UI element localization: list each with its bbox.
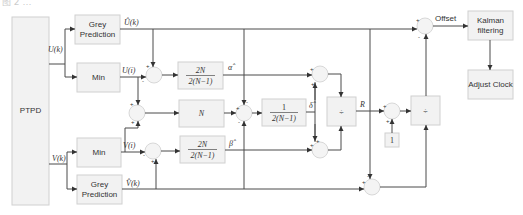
signal-r: R: [359, 100, 365, 109]
grey-top-line2: Prediction: [80, 30, 116, 39]
signal-v-k: V(k): [52, 154, 66, 163]
svg-text:+: +: [236, 105, 240, 111]
sum-junction-alpha-delta: [312, 66, 328, 82]
adjust-clock-block: Adjust Clock: [468, 70, 514, 99]
svg-text:+: +: [130, 101, 134, 107]
signal-u-k: U(k): [48, 45, 63, 54]
signal-v-hat: V̂(k): [126, 178, 140, 188]
signal-u-min: U(i): [122, 66, 136, 75]
divide-block-1: ÷: [327, 97, 356, 126]
sum-junction-beta-delta: [312, 142, 328, 158]
sum-junction-v: [145, 143, 161, 159]
svg-text:+: +: [386, 118, 390, 124]
min-bottom-label: Min: [93, 148, 106, 157]
gain-delta-numerator: 1: [282, 103, 286, 112]
divide-2-label: ÷: [423, 107, 428, 116]
sum-junction-vhat: [364, 179, 380, 195]
grey-bottom-line2: Prediction: [82, 190, 118, 199]
grey-prediction-bottom-block: Grey Prediction: [77, 175, 122, 204]
min-bottom-block: Min: [77, 138, 121, 167]
signal-offset: Offset: [435, 14, 457, 23]
constant-one-label: 1: [390, 136, 394, 145]
svg-text:-: -: [367, 173, 369, 179]
min-top-block: Min: [77, 63, 120, 92]
kalman-filtering-block: Kalman filtering: [468, 11, 513, 40]
grey-top-line1: Grey: [89, 20, 106, 29]
kalman-line2: filtering: [478, 26, 504, 35]
grey-prediction-top-block: Grey Prediction: [75, 15, 120, 44]
gain-beta-numerator: 2N: [198, 140, 208, 149]
gain-beta-block: 2N 2(N−1): [180, 136, 225, 163]
ptpd-block: PTPD: [12, 17, 49, 205]
gain-alpha-block: 2N 2(N−1): [178, 62, 223, 89]
svg-text:+: +: [311, 81, 315, 87]
svg-text:+: +: [310, 142, 314, 148]
svg-text:+: +: [383, 103, 387, 109]
gain-alpha-denominator: 2(N−1): [188, 77, 212, 86]
svg-text:+: +: [362, 179, 366, 185]
gain-n-label: N: [198, 109, 205, 118]
gain-delta-denominator: 2(N−1): [272, 114, 296, 123]
svg-text:+: +: [310, 66, 314, 72]
min-top-label: Min: [92, 73, 105, 82]
gain-n-block: N: [179, 100, 224, 127]
ptpd-kalman-block-diagram: 图 2 … PTPD Grey Prediction Min Min Grey …: [0, 0, 523, 215]
svg-text:+: +: [151, 158, 155, 164]
svg-text:-: -: [238, 119, 240, 125]
svg-text:+: +: [416, 17, 420, 23]
svg-text:-: -: [418, 34, 420, 40]
sum-junction-u: [146, 67, 162, 83]
divide-block-2: ÷: [411, 96, 440, 125]
gain-beta-denominator: 2(N−1): [190, 151, 214, 160]
constant-one-block: 1: [385, 133, 399, 147]
adjust-clock-label: Adjust Clock: [468, 80, 513, 89]
svg-text:-: -: [142, 78, 144, 84]
svg-text:-: -: [143, 152, 145, 158]
divide-1-label: ÷: [339, 108, 344, 117]
svg-text:+: +: [316, 138, 320, 144]
signal-beta-hat: β̂: [228, 139, 236, 148]
signal-v-min: V(i): [123, 141, 136, 150]
grey-bottom-line1: Grey: [91, 180, 108, 189]
caption-partial: 图 2 …: [2, 0, 31, 7]
signal-u-hat: Û(k): [124, 17, 139, 27]
ptpd-label: PTPD: [20, 106, 42, 115]
gain-alpha-numerator: 2N: [196, 66, 206, 75]
svg-text:+: +: [131, 119, 135, 125]
signal-alpha-hat: α̂: [228, 63, 235, 72]
kalman-line1: Kalman: [477, 16, 504, 25]
gain-delta-block: 1 2(N−1): [262, 99, 306, 126]
svg-text:+: +: [146, 63, 150, 69]
svg-text:-: -: [246, 99, 248, 105]
